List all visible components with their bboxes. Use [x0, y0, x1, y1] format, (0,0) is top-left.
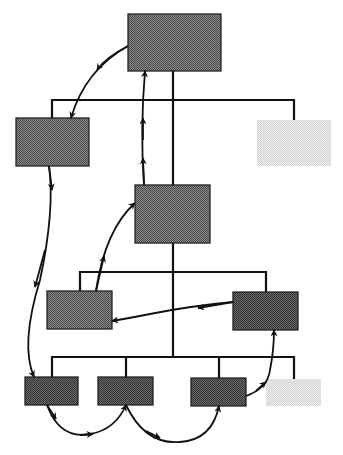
node-level2-center[interactable]: [135, 185, 210, 243]
node-level1-right[interactable]: [257, 120, 331, 166]
arrowhead-l4c-mid: [256, 382, 266, 391]
arrow-l4b-to-l4c: [126, 405, 219, 442]
node-level3-left[interactable]: [47, 291, 112, 329]
node-level1-left[interactable]: [16, 118, 89, 166]
arrow-l3left-to-l2center: [96, 203, 135, 291]
arrowhead-l3left-mid: [96, 256, 104, 291]
node-root[interactable]: [128, 14, 221, 71]
arrow-root-to-l1left: [71, 46, 128, 118]
node-level4-a[interactable]: [25, 377, 78, 405]
arrowhead-l4a-mid: [80, 434, 93, 435]
node-level4-b[interactable]: [98, 377, 153, 405]
node-level3-right[interactable]: [233, 292, 298, 330]
arrow-l4a-to-l4b: [47, 405, 126, 435]
node-level4-c[interactable]: [191, 378, 246, 406]
flow-diagram: [0, 0, 343, 455]
arrowhead-l2center-mid1: [143, 158, 144, 185]
level4-branch-line: [52, 357, 294, 379]
arrowhead-l4a-start: [47, 405, 56, 419]
node-level4-d[interactable]: [266, 379, 321, 406]
